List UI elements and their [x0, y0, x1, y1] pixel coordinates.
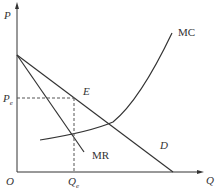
x-axis-arrow-icon: [197, 170, 204, 174]
price-label: Pe: [3, 93, 13, 107]
y-axis-label: P: [4, 10, 11, 21]
y-axis-arrow-icon: [15, 2, 19, 9]
mc-label: MC: [178, 27, 195, 38]
mr-label: MR: [92, 150, 109, 161]
demand-label: D: [160, 140, 168, 151]
x-axis-label: Q: [206, 175, 214, 186]
quantity-label: Qe: [68, 176, 79, 190]
equilibrium-point-label: E: [83, 86, 90, 97]
origin-label: O: [6, 176, 14, 187]
